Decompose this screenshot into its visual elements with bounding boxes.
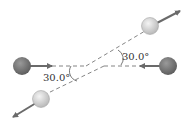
outgoing-ball-lower-left bbox=[33, 91, 50, 108]
collision-diagram: 30.0° 30.0° bbox=[0, 0, 190, 123]
dashed-trajectory-lines bbox=[46, 31, 145, 94]
angle-label-upper-right: 30.0° bbox=[122, 51, 149, 62]
arrow-down-left-icon bbox=[13, 103, 36, 117]
incoming-ball-left bbox=[13, 57, 31, 75]
arrow-up-right-icon bbox=[155, 11, 180, 24]
angle-arc-lower-left bbox=[69, 66, 77, 81]
outgoing-ball-upper-right bbox=[142, 18, 159, 35]
angle-label-lower-left: 30.0° bbox=[43, 72, 70, 83]
incoming-ball-right bbox=[159, 57, 177, 75]
